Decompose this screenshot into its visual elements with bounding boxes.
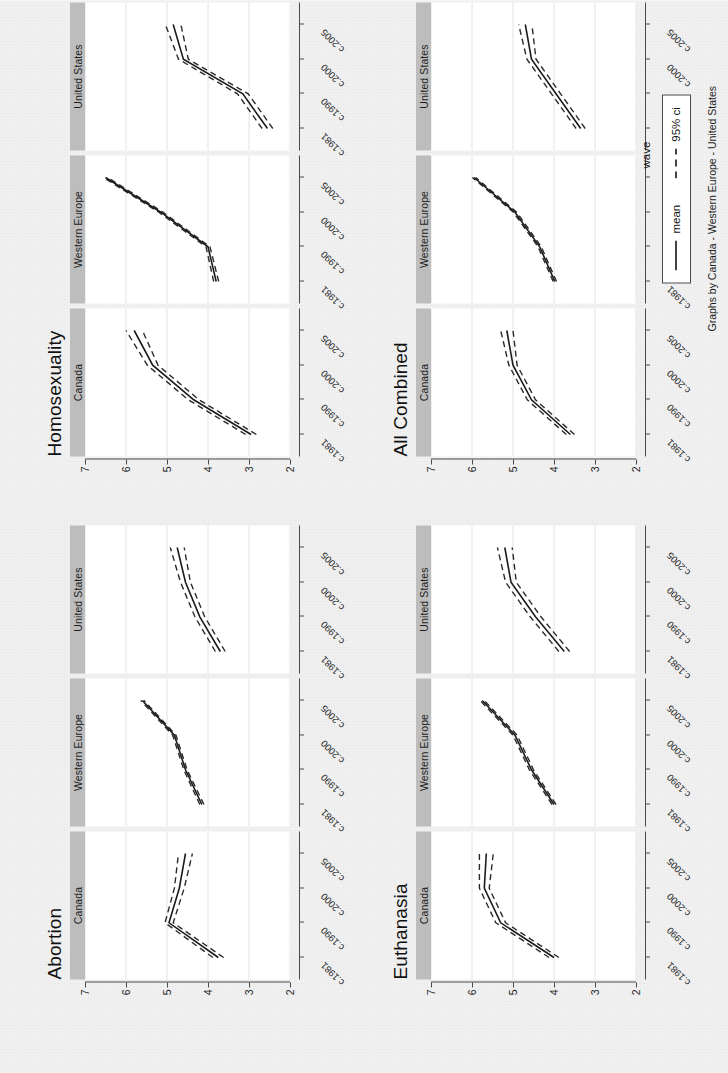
solid-line-icon [671,240,681,270]
y-tick-mark [167,459,168,464]
y-tick-mark [290,982,291,987]
x-tick-mark [299,887,304,888]
x-tick-label: c.2000 [664,61,692,89]
y-tick-mark [167,982,168,987]
ci-bound-line [184,547,225,651]
y-tick-label: 4 [548,466,560,492]
y-tick-label: 2 [630,466,642,492]
y-tick-mark [126,459,127,464]
panel-strip-label: Canada [416,831,431,979]
panel-strip-label: United States [416,525,431,673]
panel-canada: Canadac.1981c.1990c.2000c.2005 [416,308,636,456]
x-axis: c.1981c.1990c.2000c.2005 [645,525,697,673]
panel-row: Canadac.1981c.1990c.2000c.2005Western Eu… [416,525,636,979]
y-axis: 234567 [416,981,636,1035]
x-axis: c.1981c.1990c.2000c.2005 [299,831,351,979]
x-tick-mark [299,127,304,128]
panel-strip-label: United States [70,2,85,150]
panel-strip-label: Western Europe [416,155,431,303]
x-tick-label: c.1990 [318,925,346,953]
x-tick-mark [299,921,304,922]
x-tick-mark [299,650,304,651]
x-axis-label: wave [640,141,652,168]
x-tick-mark [299,581,304,582]
y-tick-mark [126,982,127,987]
y-tick-mark [431,982,432,987]
y-axis: 234567 [416,458,636,512]
plot-area [431,678,636,826]
y-tick-mark [85,982,86,987]
ci-bound-line [479,853,549,957]
ci-bound-line [497,547,559,651]
mean-line [484,853,554,957]
y-tick-label: 3 [589,466,601,492]
x-axis: c.1981c.1990c.2000c.2005 [299,678,351,826]
plot-area [85,831,290,979]
x-tick-mark [645,768,650,769]
y-tick-mark [554,459,555,464]
x-tick-label: c.2005 [664,703,692,731]
y-tick-mark [472,459,473,464]
x-tick-mark [645,364,650,365]
plot-area [431,155,636,303]
y-tick-label: 7 [79,989,91,1015]
x-tick-label: c.1981 [664,960,692,988]
panel-western-europe: Western Europec.1981c.1990c.2000c.2005 [70,678,290,826]
panel-strip-label: Canada [416,308,431,456]
x-tick-mark [299,433,304,434]
ci-bound-line [165,853,213,957]
x-tick-mark [299,803,304,804]
chart-title: Abortion [44,907,66,979]
x-axis: c.1981c.1990c.2000c.2005 [299,2,351,150]
figure-sheet: Abortion234567Canadac.1981c.1990c.2000c.… [0,0,728,1073]
x-tick-label: c.2000 [664,737,692,765]
x-tick-label: c.2000 [664,890,692,918]
legend: mean95% ci [662,94,691,283]
mean-line [507,330,571,434]
x-tick-mark [299,398,304,399]
panel-strip-label: United States [416,2,431,150]
x-tick-label: c.1981 [318,807,346,835]
x-tick-mark [645,127,650,128]
x-tick-label: c.2000 [318,890,346,918]
plot-area [431,308,636,456]
mean-line [106,177,217,281]
plot-area [431,525,636,673]
y-axis-line [431,981,636,982]
x-tick-mark [299,58,304,59]
x-tick-mark [645,887,650,888]
x-tick-mark [299,211,304,212]
y-tick-label: 6 [466,466,478,492]
legend-label: 95% ci [670,107,682,142]
panel-united-states: United Statesc.1981c.1990c.2000c.2005 [416,525,636,673]
x-tick-label: c.2000 [318,584,346,612]
y-tick-mark [249,459,250,464]
y-tick-mark [513,459,514,464]
x-tick-mark [299,956,304,957]
ci-bound-line [484,700,556,804]
ci-bound-line [141,700,200,804]
x-tick-label: c.1990 [318,249,346,277]
chart-title: Euthanasia [390,883,412,979]
y-tick-label: 4 [548,989,560,1015]
legend-label: mean [670,204,682,233]
x-tick-label: c.1981 [664,284,692,312]
x-tick-label: c.2000 [318,737,346,765]
x-tick-mark [299,734,304,735]
y-tick-mark [290,459,291,464]
ci-bound-line [181,24,273,128]
y-axis-line [85,458,290,459]
legend-item-95-ci: 95% ci [670,107,682,179]
x-tick-mark [299,364,304,365]
ci-bound-line [142,330,256,434]
mean-line [177,547,220,651]
x-tick-mark [299,23,304,24]
panel-canada: Canadac.1981c.1990c.2000c.2005 [416,831,636,979]
x-tick-label: c.1990 [318,402,346,430]
x-tick-mark [645,329,650,330]
x-tick-mark [299,245,304,246]
panel-row: Canadac.1981c.1990c.2000c.2005Western Eu… [70,525,290,979]
x-tick-label: c.1990 [664,619,692,647]
x-tick-mark [645,581,650,582]
x-tick-mark [299,92,304,93]
